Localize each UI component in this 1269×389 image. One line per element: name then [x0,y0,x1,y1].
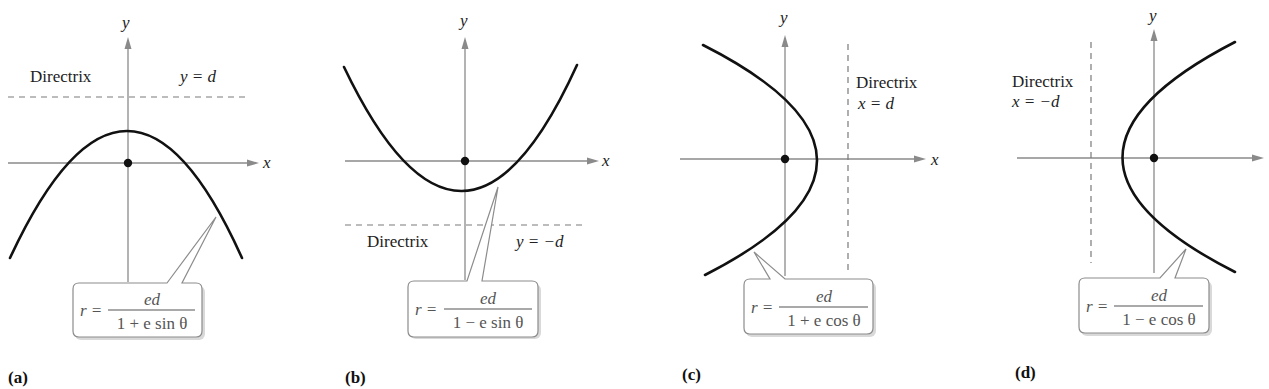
panel-label: (b) [345,368,366,387]
panel-b: y x Directrix y = −d r = ed 1 − e sin θ … [344,11,610,387]
x-axis-arrow-icon [587,158,599,165]
x-axis-label: x [930,150,939,169]
formula-lhs: r = [1086,297,1108,316]
parabola-curve [703,45,817,275]
y-axis-label: y [778,8,788,27]
x-axis-label: x [262,153,271,172]
formula-numerator: ed [816,287,833,306]
panel-a: Directrix y = d y x r = ed 1 + e sin θ (… [8,13,271,387]
focus-point [1150,154,1158,162]
formula-numerator: ed [1151,286,1168,305]
directrix-label: Directrix [1012,72,1074,91]
y-axis-label: y [458,11,468,30]
directrix-label: Directrix [30,67,92,86]
y-axis-arrow-icon [782,35,789,47]
x-axis-arrow-icon [1252,155,1264,162]
panel-label: (a) [8,368,28,387]
focus-point [124,159,132,167]
directrix-equation: y = −d [514,232,564,251]
directrix-equation: y = d [178,67,217,86]
y-axis-label: y [120,13,130,32]
y-axis-label: y [1147,6,1157,25]
formula-denominator: 1 − e sin θ [453,313,524,332]
x-axis-arrow-icon [247,160,259,167]
directrix-equation: x = −d [1011,92,1060,111]
x-axis-label: x [601,151,610,170]
panel-label: (d) [1015,363,1036,382]
panel-d: y Directrix x = −d r = ed 1 − e cos θ (d… [1011,6,1264,382]
formula-numerator: ed [480,289,497,308]
focus-point [781,155,789,163]
directrix-equation: x = d [857,94,895,113]
directrix-label: Directrix [856,73,918,92]
formula-lhs: r = [751,298,773,317]
parabola-curve [1123,42,1236,272]
parabola-curve [10,131,242,258]
y-axis-arrow-icon [125,37,132,49]
formula-denominator: 1 + e cos θ [787,311,860,330]
formula-lhs: r = [415,300,437,319]
y-axis-arrow-icon [1151,29,1158,41]
y-axis-arrow-icon [462,37,469,49]
formula-numerator: ed [144,290,161,309]
formula-lhs: r = [80,301,102,320]
panel-c: y x Directrix x = d r = ed 1 + e cos θ (… [680,8,939,384]
directrix-label: Directrix [367,232,429,251]
panel-label: (c) [682,365,701,384]
parabola-curve [344,65,577,191]
formula-denominator: 1 − e cos θ [1122,310,1195,329]
focus-point [461,157,469,165]
x-axis-arrow-icon [914,156,926,163]
formula-denominator: 1 + e sin θ [117,314,188,333]
